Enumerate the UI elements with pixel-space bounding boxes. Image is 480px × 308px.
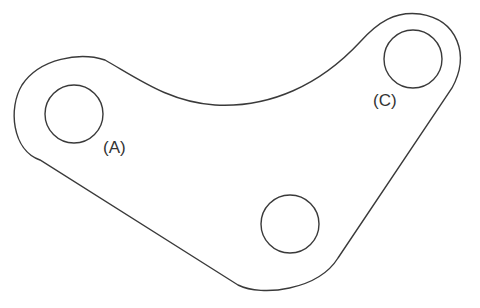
- plate-outline: [14, 14, 460, 291]
- label-c: (C): [373, 91, 397, 110]
- hole-a: [45, 85, 103, 143]
- hole-c: [384, 30, 442, 88]
- diagram-canvas: (A) (C): [0, 0, 480, 308]
- plate-diagram: (A) (C): [0, 0, 480, 308]
- hole-b: [261, 195, 319, 253]
- label-a: (A): [103, 138, 126, 157]
